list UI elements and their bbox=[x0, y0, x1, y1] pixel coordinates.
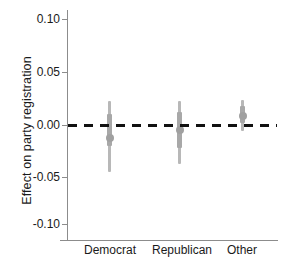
x-category-label-other: Other bbox=[213, 243, 271, 257]
x-category-label-democrat: Democrat bbox=[75, 243, 145, 257]
y-tick-label-4: -0.10 bbox=[4, 218, 60, 230]
y-tick-label-3: -0.05 bbox=[4, 171, 60, 183]
x-axis-line bbox=[60, 240, 278, 241]
point-estimate-marker bbox=[239, 112, 247, 120]
chart-figure: Effect on party registration 0.10 0.05 0… bbox=[0, 0, 282, 261]
x-category-label-republican: Republican bbox=[143, 243, 221, 257]
y-tick-label-1: 0.05 bbox=[4, 66, 60, 78]
point-estimate-marker bbox=[176, 126, 184, 134]
point-estimate-marker bbox=[106, 134, 114, 142]
y-tick-label-0: 0.10 bbox=[4, 13, 60, 25]
zero-reference-line bbox=[68, 124, 277, 127]
y-tick-label-2: 0.00 bbox=[4, 119, 60, 131]
